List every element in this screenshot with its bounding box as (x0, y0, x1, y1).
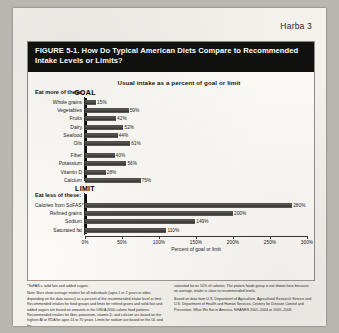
bar-label: Vitamin D (35, 169, 82, 176)
footnote-paragraph: *SoFAS = solid fats and added sugars. (27, 284, 166, 289)
limit-marker-label: LIMIT (75, 185, 95, 192)
bar-label: Fiber (35, 152, 82, 159)
bar-label: Potassium (35, 160, 82, 167)
footnote-paragraph: saturated fat on 10% of calories. The pr… (174, 284, 313, 295)
x-axis-tick-label: 0% (82, 240, 89, 245)
bar (85, 108, 129, 113)
footnote-divider (27, 280, 313, 281)
bar-label: Refined grains (35, 210, 82, 217)
bar-label: Sodium (35, 218, 82, 225)
bar-track: 42% (85, 115, 307, 122)
bar-value: 40% (116, 152, 126, 159)
bar-value: 28% (107, 169, 117, 176)
footnote-column-right: saturated fat on 10% of calories. The pr… (174, 284, 313, 326)
table-row: Sodium149% (35, 218, 307, 225)
x-axis-tick (196, 236, 197, 239)
footnote-paragraph: Note: Bars show average intakes for all … (27, 291, 166, 326)
x-axis-tick-label: 200% (227, 240, 239, 245)
chart-plot-area: Eat more of these: Eat less of these: GO… (35, 89, 307, 259)
bar (85, 211, 233, 216)
bar-value: 75% (142, 177, 152, 184)
bar (85, 170, 106, 175)
x-axis-tick-label: 300% (301, 240, 313, 245)
bar-track: 52% (85, 124, 307, 131)
footnote-column-left: *SoFAS = solid fats and added sugars.Not… (27, 284, 166, 326)
table-row: Fiber40% (35, 152, 307, 159)
bar (85, 133, 118, 138)
bar (85, 219, 195, 224)
bar (85, 178, 141, 183)
table-row: Whole grains15% (35, 99, 307, 106)
bar-track: 44% (85, 132, 307, 139)
bar-value: 56% (127, 160, 137, 167)
table-row: Fruits42% (35, 115, 307, 122)
bar-label: Calcium (35, 177, 82, 184)
bar-value: 280% (293, 202, 305, 209)
bar-track: 280% (85, 202, 307, 209)
bar-track: 149% (85, 218, 307, 225)
x-axis: 0%50%100%150%200%250%300% Percent of goa… (85, 236, 307, 254)
bar-label: Vegetables (35, 107, 82, 114)
table-row: Saturated fat110% (35, 227, 307, 234)
table-row: Vitamin D28% (35, 169, 307, 176)
x-axis-tick-label: 250% (264, 240, 276, 245)
figure-subtitle: Usual intake as a percent of goal or lim… (28, 79, 314, 86)
bar-value: 149% (196, 218, 208, 225)
running-head: Harba 3 (280, 21, 312, 31)
x-axis-label: Percent of goal or limit (85, 246, 307, 252)
bar-label: Dairy (35, 124, 82, 131)
table-row: Refined grains200% (35, 210, 307, 217)
bar-value: 110% (167, 227, 179, 234)
bar (85, 100, 96, 105)
bar-track: 28% (85, 169, 307, 176)
bar-value: 61% (131, 140, 141, 147)
table-row: Calcium75% (35, 177, 307, 184)
bar-label: Oils (35, 140, 82, 147)
bar (85, 116, 116, 121)
x-axis-tick (159, 236, 160, 239)
x-axis-tick (122, 236, 123, 239)
document-page: Harba 3 FIGURE 5-1. How Do Typical Ameri… (13, 8, 326, 326)
bar-track: 75% (85, 177, 307, 184)
table-row: Dairy52% (35, 124, 307, 131)
bar-track: 200% (85, 210, 307, 217)
x-axis-tick (270, 236, 271, 239)
footnote-paragraph: Based on data from U.S. Department of Ag… (174, 297, 313, 313)
table-row: Seafood44% (35, 132, 307, 139)
bar-label: Whole grains (35, 99, 82, 106)
bar-label: Seafood (35, 132, 82, 139)
table-row: Calories from SoFAS*280% (35, 202, 307, 209)
bar-label: Saturated fat (35, 227, 82, 234)
bar (85, 161, 126, 166)
figure-title: FIGURE 5-1. How Do Typical American Diet… (28, 42, 314, 72)
bar-label: Calories from SoFAS* (35, 202, 82, 209)
bar-track: 110% (85, 227, 307, 234)
bar (85, 228, 166, 233)
bar-track: 61% (85, 140, 307, 147)
x-axis-tick (85, 236, 86, 239)
goal-marker-label: GOAL (74, 89, 95, 96)
x-axis-tick-label: 50% (117, 240, 127, 245)
bar (85, 153, 115, 158)
bar-value: 42% (117, 115, 127, 122)
group-heading-eat-less: Eat less of these: (35, 192, 81, 198)
bar-value: 44% (119, 132, 129, 139)
bar-track: 40% (85, 152, 307, 159)
bar (85, 203, 292, 208)
bar-value: 200% (234, 210, 246, 217)
table-row: Oils61% (35, 140, 307, 147)
x-axis-tick (307, 236, 308, 239)
bar-track: 15% (85, 99, 307, 106)
table-row: Vegetables59% (35, 107, 307, 114)
bar-value: 59% (130, 107, 140, 114)
bar (85, 141, 130, 146)
figure-footnotes: *SoFAS = solid fats and added sugars.Not… (27, 284, 313, 326)
x-axis-tick-label: 100% (153, 240, 165, 245)
x-axis-tick-label: 150% (190, 240, 202, 245)
bar-track: 59% (85, 107, 307, 114)
bar-value: 52% (124, 124, 134, 131)
figure-box: FIGURE 5-1. How Do Typical American Diet… (27, 41, 315, 281)
bar-value: 15% (97, 99, 107, 106)
bar-track: 56% (85, 160, 307, 167)
bar (85, 125, 123, 130)
